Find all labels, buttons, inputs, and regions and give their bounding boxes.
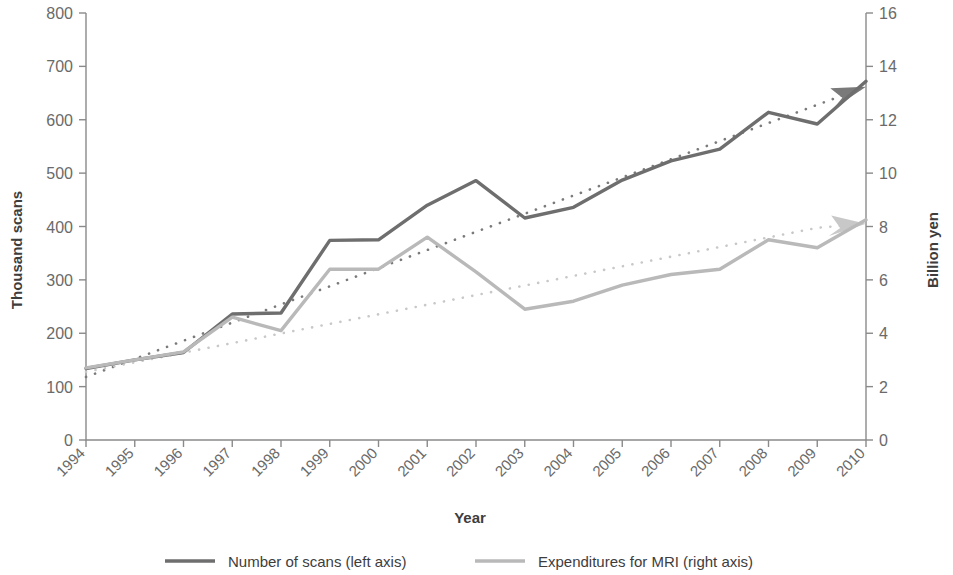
- right-tick-label: 2: [879, 379, 888, 396]
- mri-scans-expenditures-chart: 0100200300400500600700800024681012141619…: [0, 0, 953, 575]
- x-tick-label: 2008: [735, 444, 771, 480]
- left-tick-label: 200: [46, 325, 73, 342]
- series-line: [86, 220, 866, 368]
- left-tick-label: 400: [46, 219, 73, 236]
- right-tick-label: 0: [879, 432, 888, 449]
- right-tick-label: 4: [879, 325, 888, 342]
- x-tick-label: 2002: [443, 444, 479, 480]
- x-axis-title: Year: [454, 509, 486, 526]
- x-tick-label: 1999: [296, 444, 332, 480]
- left-tick-label: 300: [46, 272, 73, 289]
- x-tick-label: 1998: [248, 444, 284, 480]
- legend: Number of scans (left axis)Expenditures …: [165, 553, 753, 570]
- x-tick-label: 2004: [540, 444, 576, 480]
- left-tick-label: 0: [64, 432, 73, 449]
- chart-canvas: 0100200300400500600700800024681012141619…: [0, 0, 953, 575]
- x-tick-label: 1996: [150, 444, 186, 480]
- left-tick-label: 100: [46, 379, 73, 396]
- x-tick-label: 1995: [101, 444, 137, 480]
- x-tick-label: 2005: [589, 444, 625, 480]
- right-tick-label: 10: [879, 165, 897, 182]
- legend-label: Expenditures for MRI (right axis): [538, 553, 753, 570]
- x-tick-label: 1997: [199, 444, 235, 480]
- left-tick-label: 500: [46, 165, 73, 182]
- x-tick-label: 2010: [833, 444, 869, 480]
- left-tick-label: 800: [46, 5, 73, 22]
- x-tick-label: 2000: [345, 444, 381, 480]
- data-series: [86, 81, 866, 368]
- trend-line: [86, 224, 866, 372]
- right-tick-label: 6: [879, 272, 888, 289]
- right-tick-label: 16: [879, 5, 897, 22]
- right-tick-label: 14: [879, 58, 897, 75]
- axes: [79, 13, 873, 447]
- x-tick-label: 1994: [53, 444, 89, 480]
- right-axis-title: Billion yen: [924, 212, 941, 288]
- left-tick-label: 700: [46, 58, 73, 75]
- right-tick-label: 8: [879, 219, 888, 236]
- x-tick-label: 2006: [638, 444, 674, 480]
- x-tick-label: 2007: [686, 444, 722, 480]
- x-tick-label: 2009: [784, 444, 820, 480]
- series-line: [86, 81, 866, 368]
- left-tick-label: 600: [46, 112, 73, 129]
- trend-arrowhead: [827, 76, 870, 108]
- x-tick-label: 2003: [491, 444, 527, 480]
- left-axis-title: Thousand scans: [8, 191, 25, 309]
- x-tick-label: 2001: [394, 444, 430, 480]
- axis-lines: [86, 13, 866, 440]
- tick-labels: 0100200300400500600700800024681012141619…: [46, 5, 897, 480]
- trend-lines: [86, 76, 869, 377]
- right-tick-label: 12: [879, 112, 897, 129]
- legend-label: Number of scans (left axis): [228, 553, 406, 570]
- trend-line: [86, 87, 866, 377]
